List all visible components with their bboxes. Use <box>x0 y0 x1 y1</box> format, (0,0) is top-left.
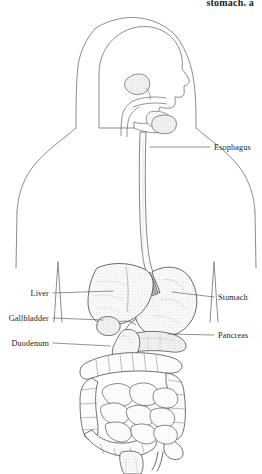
rectum <box>120 451 143 474</box>
label-duodenum: Duodenum <box>11 339 49 348</box>
label-gallbladder: Gallbladder <box>9 314 49 323</box>
label-liver: Liver <box>31 289 50 298</box>
small-intestine <box>101 383 178 444</box>
label-stomach: Stomach <box>218 293 248 302</box>
label-esophagus: Esophagus <box>214 143 251 152</box>
esophagus-tube <box>139 132 162 282</box>
leader-duodenum <box>53 343 110 346</box>
anatomy-illustration: Esophagus Stomach Pancreas Liver Gallbla… <box>0 0 262 474</box>
label-pancreas: Pancreas <box>218 331 248 340</box>
digestive-system-figure: stomach, a <box>0 0 262 474</box>
appendix <box>152 452 163 471</box>
